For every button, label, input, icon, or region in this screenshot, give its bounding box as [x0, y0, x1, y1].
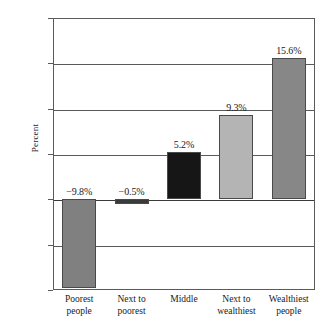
- x-category-line-1: Wealthiest: [269, 294, 309, 304]
- x-category-label: Wealthiestpeople: [269, 294, 309, 317]
- x-category-line-2: people: [269, 306, 309, 318]
- x-category-line-2: people: [65, 306, 94, 318]
- x-category-line-1: Next to: [222, 294, 250, 304]
- data-label: −0.5%: [119, 186, 145, 197]
- x-category-label: Middle: [170, 294, 197, 306]
- x-category-label: Poorestpeople: [65, 294, 94, 317]
- x-category-line-2: poorest: [117, 306, 145, 318]
- data-label: 5.2%: [174, 139, 194, 150]
- bar-chart: Percent 20151050−5−10 −9.8%−0.5%5.2%9.3%…: [0, 0, 325, 331]
- bar: [272, 58, 306, 199]
- x-category-line-1: Next to: [117, 294, 145, 304]
- y-tick-mark: [48, 18, 53, 19]
- data-label: −9.8%: [66, 186, 92, 197]
- x-category-label: Next topoorest: [117, 294, 145, 317]
- y-tick-mark: [48, 290, 53, 291]
- bar: [115, 199, 149, 204]
- y-axis-title: Percent: [30, 98, 40, 178]
- x-category-line-1: Poorest: [65, 294, 94, 304]
- bar: [219, 115, 253, 199]
- y-tick-mark: [48, 245, 53, 246]
- x-category-line-1: Middle: [170, 294, 197, 304]
- x-category-line-2: wealthiest: [217, 306, 256, 318]
- data-label: 9.3%: [226, 102, 246, 113]
- x-category-label: Next towealthiest: [217, 294, 256, 317]
- y-tick-mark: [48, 154, 53, 155]
- data-label: 15.6%: [276, 45, 301, 56]
- bar: [62, 199, 96, 288]
- y-tick-mark: [48, 63, 53, 64]
- bar: [167, 152, 201, 199]
- y-tick-mark: [48, 109, 53, 110]
- y-tick-mark: [48, 199, 53, 200]
